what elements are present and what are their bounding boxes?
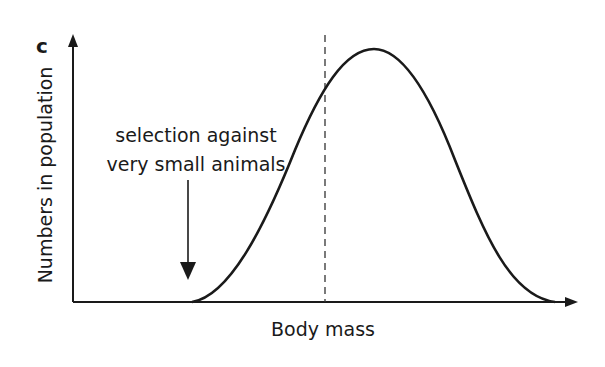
selection-annotation: selection against very small animals [107,121,286,179]
x-axis-arrowhead-icon [565,297,578,307]
diagram-canvas [0,0,605,367]
x-axis-label: Body mass [271,318,375,340]
annotation-line-2: very small animals [107,150,286,179]
y-axis-arrowhead-icon [68,34,78,47]
down-arrow-icon [180,262,196,280]
annotation-line-1: selection against [107,121,286,150]
y-axis-label: Numbers in population [34,67,56,284]
